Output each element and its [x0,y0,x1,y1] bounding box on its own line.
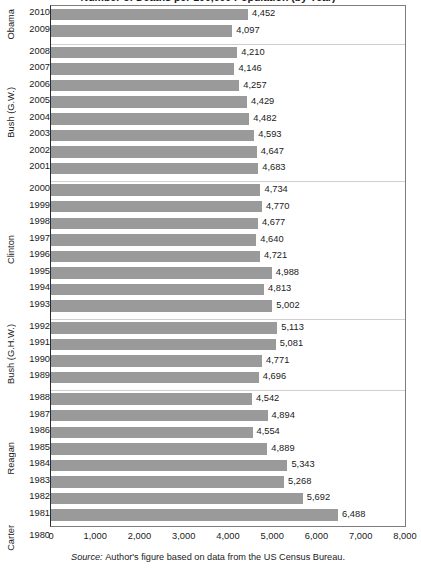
bar[interactable] [51,355,262,367]
bar[interactable] [51,339,276,351]
bar[interactable] [51,460,287,472]
president-group-label-text: Carter [6,525,16,551]
bar[interactable] [51,393,252,405]
bar[interactable] [51,218,258,230]
year-label: 1986 [22,426,50,435]
bar-value-label: 4,640 [260,235,283,244]
year-label: 1990 [22,355,50,364]
year-label: 1987 [22,410,50,419]
bar[interactable] [51,443,267,455]
bar-value-label: 4,554 [257,427,280,436]
year-label: 1994 [22,283,50,292]
year-label: 1988 [22,393,50,402]
year-label: 1989 [22,371,50,380]
bar[interactable] [51,163,258,175]
bar-value-label: 4,097 [236,26,259,35]
bar[interactable] [51,146,257,158]
year-label: 1998 [22,217,50,226]
bar[interactable] [51,63,234,75]
source-note: Source: Author's figure based on data fr… [0,552,416,562]
plot-area: 4,4524,0974,2104,1464,2574,4294,4824,593… [50,5,406,527]
bar[interactable] [51,322,277,334]
source-prefix: Source: [71,552,103,562]
year-label: 2005 [22,96,50,105]
year-label: 1995 [22,267,50,276]
president-group-label-text: Bush (G.H.W.) [6,324,16,384]
bar[interactable] [51,80,239,92]
bar-value-label: 4,677 [262,218,285,227]
bar-value-label: 4,542 [256,394,279,403]
bar-value-label: 4,894 [272,411,295,420]
year-label: 2007 [22,63,50,72]
bar-value-label: 5,081 [280,339,303,348]
bar[interactable] [51,201,262,213]
bar[interactable] [51,300,272,312]
bar-value-label: 4,813 [268,284,291,293]
group-separator [51,44,405,45]
bar[interactable] [51,25,232,37]
year-label: 2004 [22,113,50,122]
year-label: 1984 [22,459,50,468]
bar[interactable] [51,96,247,108]
year-label: 1982 [22,492,50,501]
bar-value-label: 5,113 [281,323,304,332]
bar-value-label: 4,647 [261,147,284,156]
group-separator [51,390,405,391]
bar[interactable] [51,184,260,196]
bar[interactable] [51,130,254,142]
year-label: 2001 [22,162,50,171]
bar[interactable] [51,113,249,125]
year-label: 2002 [22,146,50,155]
bar-value-label: 6,488 [342,510,365,519]
year-label: 2009 [22,25,50,34]
year-label: 1993 [22,300,50,309]
bar[interactable] [51,493,303,505]
president-group-label: Bush (G.W.) [0,46,22,178]
bar[interactable] [51,476,284,488]
group-separator [51,319,405,320]
bar-value-label: 4,593 [258,130,281,139]
bar-value-label: 4,889 [271,444,294,453]
chart-title: Number of Deaths per 100,000 Population … [0,0,416,3]
year-label: 1981 [22,509,50,518]
x-axis-tick: 8,000 [375,532,421,541]
bar[interactable] [51,372,259,384]
year-label: 2003 [22,129,50,138]
bar[interactable] [51,284,264,296]
group-separator [51,181,405,182]
president-group-label: Carter [0,530,22,547]
year-label: 1999 [22,201,50,210]
year-label: 1983 [22,476,50,485]
president-group-label-text: Bush (G.W.) [6,87,16,138]
president-group-label: Bush (G.H.W.) [0,321,22,387]
bar-value-label: 5,268 [288,477,311,486]
president-group-label-text: Obama [6,9,16,40]
bar-value-label: 4,734 [264,185,287,194]
year-label: 1992 [22,322,50,331]
bar[interactable] [51,509,338,521]
president-group-label-text: Reagan [6,442,16,475]
year-label: 1997 [22,234,50,243]
bar[interactable] [51,47,237,59]
source-text: Author's figure based on data from the U… [105,552,345,562]
bar-value-label: 4,771 [266,356,289,365]
bar-value-label: 4,696 [263,372,286,381]
year-label: 1991 [22,338,50,347]
year-label: 2010 [22,8,50,17]
president-group-label-text: Clinton [6,235,16,264]
bar[interactable] [51,234,256,246]
bar[interactable] [51,251,260,263]
bar-value-label: 4,210 [241,48,264,57]
bar[interactable] [51,267,272,279]
bar-value-label: 4,452 [252,9,275,18]
bar-value-label: 4,770 [266,202,289,211]
bar-value-label: 5,002 [276,301,299,310]
bar[interactable] [51,427,253,439]
year-label: 2000 [22,184,50,193]
bar[interactable] [51,9,248,21]
bar[interactable] [51,410,268,422]
bar-value-label: 5,692 [307,493,330,502]
bar-value-label: 4,429 [251,97,274,106]
bar-value-label: 4,482 [253,114,276,123]
